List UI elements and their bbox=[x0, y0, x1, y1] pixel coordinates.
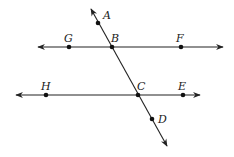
point-C bbox=[136, 93, 141, 98]
point-B bbox=[110, 45, 115, 50]
point-label-E: E bbox=[177, 80, 186, 93]
point-label-B: B bbox=[110, 32, 119, 45]
point-G bbox=[67, 45, 72, 50]
point-A bbox=[96, 21, 101, 26]
point-label-D: D bbox=[157, 113, 167, 126]
point-label-H: H bbox=[40, 80, 51, 93]
point-H bbox=[44, 93, 49, 98]
point-label-A: A bbox=[102, 9, 111, 22]
point-F bbox=[179, 45, 184, 50]
transversal-AD bbox=[91, 9, 167, 146]
point-label-C: C bbox=[137, 80, 146, 93]
point-D bbox=[150, 117, 155, 122]
point-label-F: F bbox=[175, 32, 184, 45]
point-E bbox=[181, 93, 186, 98]
point-label-G: G bbox=[64, 32, 73, 45]
geometry-diagram: AGBFHCED bbox=[0, 0, 234, 157]
